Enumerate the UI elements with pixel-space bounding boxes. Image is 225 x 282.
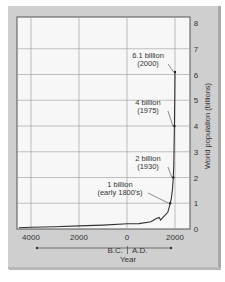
- annotation-year: (1930): [137, 162, 159, 171]
- annotation-point: [172, 176, 174, 178]
- y-tick-label: 0: [194, 225, 199, 234]
- y-tick-label: 1: [194, 199, 199, 208]
- y-tick-label: 4: [194, 122, 199, 131]
- timeline-end-dot: [170, 247, 172, 249]
- x-tick-label: 2000: [166, 233, 184, 242]
- y-tick-label: 2: [194, 174, 199, 183]
- y-tick-label: 6: [194, 71, 199, 80]
- x-axis-ticks: 4000200002000: [22, 233, 184, 242]
- y-axis-ticks: 012345678: [194, 19, 199, 234]
- y-tick-label: 5: [194, 96, 199, 105]
- annotation-point: [174, 71, 176, 73]
- x-tick-label: 4000: [22, 233, 40, 242]
- annotation-point: [169, 202, 171, 204]
- y-tick-label: 8: [194, 19, 199, 28]
- ad-label: A.D.: [132, 246, 148, 255]
- annotation-point: [173, 125, 175, 127]
- annotation-year: (1975): [137, 106, 159, 115]
- annotation-year: (early 1800's): [97, 188, 143, 197]
- timeline-start-dot: [36, 247, 38, 249]
- population-chart: 012345678 4000200002000 6.1 billion(2000…: [0, 0, 225, 282]
- y-axis-label: World population (billions): [203, 82, 212, 169]
- x-tick-label: 2000: [70, 233, 88, 242]
- y-tick-label: 3: [194, 148, 199, 157]
- x-axis-label: Year: [120, 255, 137, 264]
- annotation-year: (2000): [137, 59, 159, 68]
- x-tick-label: 0: [125, 233, 130, 242]
- bc-label: B.C.: [107, 246, 123, 255]
- y-tick-label: 7: [194, 45, 199, 54]
